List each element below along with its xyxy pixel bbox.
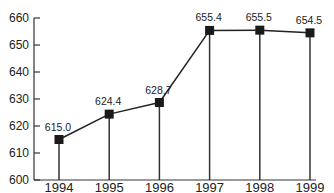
data-value-label: 624.4	[95, 95, 121, 107]
series-segment	[260, 30, 310, 33]
data-point-marker	[205, 26, 214, 35]
data-value-label: 628.7	[145, 84, 171, 96]
x-tick-label: 1994	[45, 180, 74, 193]
y-axis-ticks: 600610620630640650660	[9, 11, 40, 187]
y-tick-label: 660	[9, 11, 29, 25]
data-value-label: 655.5	[246, 11, 272, 23]
x-tick-label: 1999	[296, 180, 325, 193]
data-value-label: 615.0	[45, 121, 71, 133]
y-tick-label: 640	[9, 65, 29, 79]
x-tick-label: 1995	[95, 180, 124, 193]
y-tick-label: 600	[9, 173, 29, 187]
y-tick-label: 610	[9, 146, 29, 160]
y-tick-label: 620	[9, 119, 29, 133]
axes	[34, 18, 316, 180]
x-tick-label: 1997	[195, 180, 224, 193]
data-markers	[55, 26, 315, 144]
line-chart: 600610620630640650660 199419951996199719…	[0, 0, 334, 193]
data-point-marker	[55, 135, 64, 144]
x-tick-label: 1998	[245, 180, 274, 193]
x-axis-labels: 199419951996199719981999	[45, 180, 325, 193]
series-lines	[59, 30, 310, 139]
data-value-label: 654.5	[296, 14, 322, 26]
data-point-marker	[255, 26, 264, 35]
y-tick-label: 630	[9, 92, 29, 106]
data-point-marker	[306, 28, 315, 37]
data-labels: 615.0624.4628.7655.4655.5654.5	[45, 11, 322, 132]
data-value-label: 655.4	[195, 11, 221, 23]
y-tick-label: 650	[9, 38, 29, 52]
x-tick-label: 1996	[145, 180, 174, 193]
data-point-marker	[155, 98, 164, 107]
data-point-marker	[105, 110, 114, 119]
